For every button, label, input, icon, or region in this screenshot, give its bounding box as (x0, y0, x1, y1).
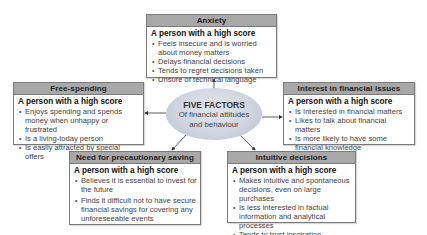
factor-box-interest-in-financial-issues: Interest in financial issues A person wi… (283, 82, 415, 145)
factor-box-intuitive-decisions: Intuitive decisions A person with a high… (227, 151, 356, 223)
center-title: FIVE FACTORS (166, 100, 262, 110)
list-item: Unsure of technical language (151, 75, 273, 84)
list-item: Tends to trust inspiration (232, 230, 352, 235)
center-subtitle-line2: and behaviour (166, 120, 262, 130)
list-item: Delays financial decisions (151, 57, 273, 66)
factor-title: Anxiety (147, 15, 276, 27)
factor-subtitle: A person with a high score (18, 97, 140, 107)
factor-box-anxiety: Anxiety A person with a high score Feels… (146, 14, 277, 78)
factor-title: Free-spending (14, 83, 143, 95)
factor-title: Interest in financial issues (284, 83, 414, 95)
list-item: Feels insecure and is worried about mone… (151, 39, 273, 57)
list-item: Finds it difficult not to have secure fi… (74, 196, 197, 223)
list-item: Is more likely to have some financial kn… (288, 134, 411, 152)
list-item: Enjoys spending and spends money when un… (18, 107, 140, 134)
list-item: Believes it is essential to invest for t… (74, 176, 197, 194)
factor-subtitle: A person with a high score (232, 166, 352, 176)
center-subtitle-line1: Of financial attitudes (166, 110, 262, 120)
factor-box-free-spending: Free-spending A person with a high score… (13, 82, 144, 145)
list-item: Is a living-today person (18, 134, 140, 143)
list-item: Tends to regret decisions taken (151, 66, 273, 75)
factor-title: Need for precautionary saving (70, 152, 200, 164)
list-item: Makes intuitive and spontaneous decision… (232, 176, 352, 203)
list-item: Is less interested in factual informatio… (232, 203, 352, 230)
factor-title: Intuitive decisions (228, 152, 355, 164)
list-item: Is Interested in financial matters (288, 107, 411, 116)
factor-box-need-for-precautionary-saving: Need for precautionary saving A person w… (69, 151, 201, 225)
factor-subtitle: A person with a high score (288, 97, 411, 107)
list-item: Likes to talk about financial matters (288, 116, 411, 134)
center-ellipse: FIVE FACTORS Of financial attitudes and … (166, 88, 262, 140)
factor-subtitle: A person with a high score (151, 29, 273, 39)
factor-subtitle: A person with a high score (74, 166, 197, 176)
